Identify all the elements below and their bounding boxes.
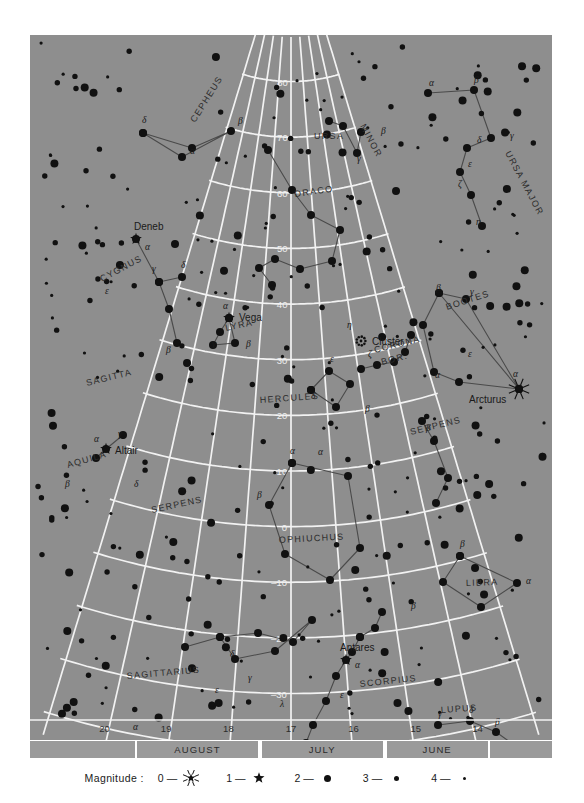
star-dot (46, 647, 49, 650)
cluster-dot (360, 344, 363, 347)
bayer-label: γ (357, 154, 361, 164)
star-dot (420, 646, 423, 649)
star-dot (439, 240, 442, 243)
bayer-label: γ (248, 673, 252, 683)
star-dot (477, 431, 482, 436)
ra-tick-label: 15 (411, 723, 422, 734)
star-dot (518, 62, 526, 70)
month-cell-june[interactable]: JUNE (385, 741, 490, 758)
star-dot (309, 675, 312, 678)
star-dot (363, 247, 371, 255)
star-dot (204, 621, 212, 629)
constellation-label: URSA MAJOR (503, 149, 545, 217)
star-dot (86, 204, 89, 207)
star-dot (126, 187, 129, 190)
constellation-label: SERPENS (150, 494, 203, 515)
star-dot (384, 145, 387, 148)
constellation-label: SAGITTARIUS (126, 665, 200, 681)
bayer-label: γ (152, 264, 156, 274)
star-dot (521, 481, 526, 486)
star-dot (307, 211, 315, 219)
star-dot (491, 494, 496, 499)
legend-glyph-large-dot (319, 769, 337, 787)
star-dot (392, 581, 395, 584)
legend-entry-mag-1: 1— (226, 769, 268, 787)
star-dot (328, 257, 336, 265)
star-dot (188, 378, 193, 383)
dec-tick-label: –30 (271, 689, 287, 700)
month-cell-august[interactable]: AUGUST (135, 741, 259, 758)
legend-glyph-medium-dot (387, 769, 405, 787)
star-dot (39, 495, 44, 500)
star-dot (469, 271, 477, 279)
star-dot (492, 728, 500, 736)
star-dot (394, 490, 397, 493)
ra-tick-label: 19 (161, 723, 172, 734)
star-dot (227, 127, 235, 135)
star-dot (62, 73, 65, 76)
star-dot (525, 301, 530, 306)
magnitude-legend: Magnitude : 0—1—2—3—4— (0, 766, 584, 790)
star-dot (102, 662, 110, 670)
dec-tick-label: 40 (277, 299, 288, 310)
star-dot (513, 214, 516, 217)
star-dot (406, 510, 409, 513)
star-dot (317, 640, 320, 643)
star-dot (508, 658, 511, 661)
star-dot (187, 297, 190, 300)
legend-entry-mag-0: 0— (158, 769, 200, 787)
star-dot (460, 248, 463, 251)
star-dot (49, 154, 52, 157)
star-ray (521, 393, 524, 399)
star-dot (82, 489, 85, 492)
star-dot (344, 472, 352, 480)
bayer-label: β (245, 339, 251, 349)
month-cell-july[interactable]: JULY (260, 741, 385, 758)
bayer-label: ζ (458, 179, 463, 190)
star-dot (49, 517, 54, 522)
star-dot (432, 435, 437, 440)
star-dot (178, 153, 186, 161)
star-dot (254, 629, 262, 637)
star-dot (83, 351, 86, 354)
star-dot (85, 500, 88, 503)
bayer-label: α (145, 242, 151, 252)
star-dot (49, 422, 57, 430)
star-dot (111, 544, 116, 549)
named-star-label: Deneb (134, 221, 164, 232)
named-star[interactable]: Denebα (130, 221, 164, 252)
constellation-line (428, 90, 491, 226)
star-dot (132, 584, 137, 589)
star-dot (295, 79, 298, 82)
star-dot (48, 409, 56, 417)
star-dot (63, 627, 71, 635)
star-dot (232, 706, 235, 709)
star-dot (532, 64, 540, 72)
star-dot (306, 149, 311, 154)
star-dot (264, 226, 267, 229)
constellation-label: CYGNUS (98, 253, 144, 284)
star-dot (196, 238, 199, 241)
star-dot (183, 359, 191, 367)
star-dot (347, 690, 352, 695)
star-dot (274, 186, 277, 189)
star-dot (178, 273, 186, 281)
star-dot (45, 258, 48, 261)
star-dot (356, 633, 364, 641)
star-dot (515, 299, 523, 307)
sky-map-panel[interactable]: 80706050403020100–10–20–30–40DenebαVegaα… (30, 35, 552, 740)
star-dot (428, 113, 436, 121)
star-dot (369, 669, 372, 672)
star-dot (425, 416, 428, 419)
star-dot (101, 702, 104, 705)
legend-entry-mag-3: 3— (363, 769, 405, 787)
star-dot (443, 485, 448, 490)
star-dot (189, 631, 194, 636)
star-dot (375, 554, 378, 557)
bayer-label: α (133, 722, 139, 732)
legend-dash: — (440, 772, 451, 784)
star-dot (271, 214, 276, 219)
legend-dash: — (235, 772, 246, 784)
star-dot (142, 467, 147, 472)
star-dot (521, 266, 529, 274)
